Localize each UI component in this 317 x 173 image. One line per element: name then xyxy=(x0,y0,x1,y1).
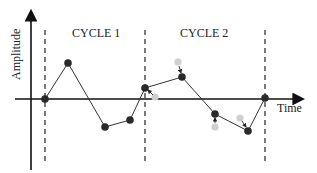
ghost-point xyxy=(211,123,218,130)
data-point xyxy=(126,116,134,124)
data-point xyxy=(141,84,149,92)
cycle-diagram: Amplitude Time CYCLE 1 CYCLE 2 xyxy=(0,0,317,173)
data-point xyxy=(244,127,252,135)
shift-arrow xyxy=(179,66,181,73)
data-point xyxy=(178,73,186,81)
diagram-canvas: Amplitude Time CYCLE 1 CYCLE 2 xyxy=(0,0,317,173)
y-axis-label: Amplitude xyxy=(9,29,23,80)
ghost-point xyxy=(236,114,243,121)
data-point xyxy=(64,59,72,67)
data-point xyxy=(41,95,49,103)
data-point xyxy=(101,123,109,131)
data-point xyxy=(211,110,219,118)
shift-arrow xyxy=(242,121,246,127)
cycle-2-label: CYCLE 2 xyxy=(180,26,228,40)
cycle-1-label: CYCLE 1 xyxy=(72,26,120,40)
data-point xyxy=(261,94,269,102)
shift-arrow xyxy=(148,90,153,95)
ghost-point xyxy=(174,58,181,65)
x-axis-label: Time xyxy=(277,101,302,115)
